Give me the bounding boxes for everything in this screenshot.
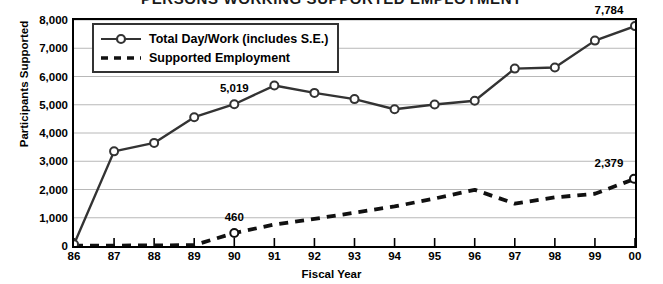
legend-item-total: Total Day/Work (includes S.E.): [100, 29, 328, 48]
x-tick-label: 91: [254, 250, 294, 262]
data-point-marker: [110, 147, 118, 155]
chart-screenshot: PERSONS WORKING SUPPORTED EMPLOYMENT Par…: [0, 0, 663, 284]
data-point-marker: [230, 229, 238, 237]
x-tick-label: 97: [495, 250, 535, 262]
data-point-marker: [630, 175, 635, 183]
x-tick-label: 87: [94, 250, 134, 262]
data-point-marker: [631, 22, 635, 30]
x-tick-label: 96: [455, 250, 495, 262]
y-tick-label: 2,000: [6, 184, 68, 196]
data-point-marker: [551, 63, 559, 71]
y-tick-label: 5,000: [6, 99, 68, 111]
data-label: 5,019: [220, 82, 249, 94]
y-axis-tick-labels: 01,0002,0003,0004,0005,0006,0007,0008,00…: [0, 0, 68, 284]
data-point-marker: [431, 100, 439, 108]
chart-legend: Total Day/Work (includes S.E.) Supported…: [92, 23, 339, 73]
x-tick-label: 98: [535, 250, 575, 262]
x-tick-label: 99: [575, 250, 615, 262]
series-line-1: [74, 179, 635, 246]
x-axis-title: Fiscal Year: [0, 268, 663, 280]
x-tick-label: 93: [335, 250, 375, 262]
data-point-marker: [511, 65, 519, 73]
data-point-marker: [190, 113, 198, 121]
legend-item-supported: Supported Employment: [100, 48, 328, 67]
x-tick-label: 95: [415, 250, 455, 262]
x-tick-label: 94: [375, 250, 415, 262]
y-tick-label: 4,000: [6, 127, 68, 139]
legend-label-supported: Supported Employment: [149, 51, 290, 65]
data-point-marker: [150, 139, 158, 147]
data-point-marker: [270, 82, 278, 90]
data-label: 460: [225, 211, 244, 223]
data-point-marker: [310, 89, 318, 97]
x-tick-label: 90: [214, 250, 254, 262]
legend-swatch-dashed: [100, 51, 142, 65]
y-tick-label: 8,000: [6, 14, 68, 26]
y-tick-label: 6,000: [6, 71, 68, 83]
data-point-marker: [471, 97, 479, 105]
data-point-marker: [74, 240, 78, 246]
data-label: 2,379: [595, 157, 624, 169]
x-tick-label: 86: [54, 250, 94, 262]
chart-title: PERSONS WORKING SUPPORTED EMPLOYMENT: [0, 0, 663, 7]
data-point-marker: [591, 37, 599, 45]
x-tick-label: 89: [174, 250, 214, 262]
data-point-marker: [230, 100, 238, 108]
data-label: 7,784: [595, 4, 624, 16]
y-tick-label: 1,000: [6, 212, 68, 224]
legend-label-total: Total Day/Work (includes S.E.): [149, 32, 328, 46]
x-tick-label: 88: [134, 250, 174, 262]
x-axis-tick-labels: 868788899091929394959697989900: [0, 250, 663, 270]
legend-swatch-solid-circle: [100, 32, 142, 46]
y-tick-label: 3,000: [6, 155, 68, 167]
data-point-marker: [351, 95, 359, 103]
x-tick-label: 92: [294, 250, 334, 262]
x-tick-label: 00: [615, 250, 655, 262]
y-tick-label: 7,000: [6, 42, 68, 54]
data-point-marker: [391, 105, 399, 113]
